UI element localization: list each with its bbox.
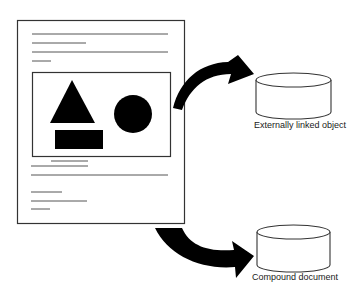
arrow-to-external-object [173,55,254,110]
diagram-canvas [0,0,356,295]
document-page [18,21,185,224]
cylinder-icon [256,73,331,119]
arrow-to-compound-document [155,228,254,278]
compound-document-label: Compound document [252,272,338,282]
embedded-graphic-frame [33,73,171,157]
externally-linked-object-label: Externally linked object [254,120,346,130]
cylinder-icon [257,225,330,272]
circle-shape [114,95,152,133]
rectangle-shape [55,130,103,149]
